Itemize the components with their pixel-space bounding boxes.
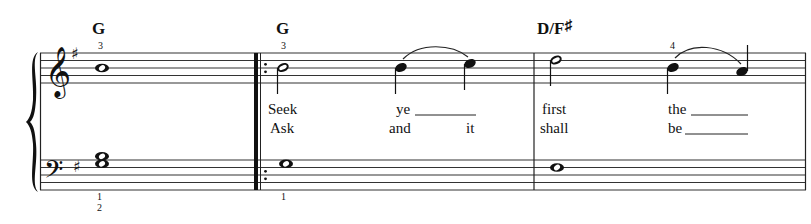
lyric: it bbox=[466, 120, 474, 137]
whole-note bbox=[550, 163, 564, 172]
fingering: 3 bbox=[281, 40, 286, 51]
half-note bbox=[549, 54, 563, 86]
lyric: Ask bbox=[270, 120, 294, 137]
sharp-icon: ♯ bbox=[73, 157, 81, 176]
treble-clef-icon: 𝄞 bbox=[45, 45, 71, 99]
lyric: the bbox=[668, 101, 686, 118]
chord-symbol: D/F♯ bbox=[537, 17, 572, 39]
slur bbox=[675, 47, 741, 64]
fingering: 4 bbox=[670, 40, 675, 51]
lyric: Seek bbox=[268, 101, 297, 118]
chord-symbol-sharp: ♯ bbox=[564, 17, 572, 33]
repeat-start-barline bbox=[254, 53, 267, 190]
lyric: and bbox=[389, 120, 411, 137]
lyric: shall bbox=[540, 120, 568, 137]
bass-clef-icon: 𝄢 bbox=[44, 155, 63, 190]
quarter-note bbox=[666, 61, 680, 94]
quarter-note bbox=[735, 45, 749, 78]
chord-symbol: G bbox=[276, 19, 289, 39]
brace bbox=[26, 52, 38, 192]
fingering: 3 bbox=[98, 40, 103, 51]
bass-staff bbox=[40, 160, 806, 190]
quarter-note bbox=[463, 57, 477, 90]
lyric: ye bbox=[396, 101, 410, 118]
fingering: 1 bbox=[281, 191, 286, 202]
treble-staff bbox=[40, 53, 806, 83]
lyric: be bbox=[668, 120, 682, 137]
chord-symbol: G bbox=[92, 19, 105, 39]
lyric: first bbox=[542, 101, 566, 118]
lyric-extender-lines bbox=[415, 115, 748, 134]
chord-symbol-main: D/F bbox=[537, 19, 564, 38]
fingering: 1 bbox=[97, 191, 102, 202]
fingering: 2 bbox=[97, 202, 102, 213]
whole-note bbox=[279, 160, 293, 169]
half-note bbox=[276, 61, 290, 94]
sharp-icon: ♯ bbox=[71, 44, 79, 63]
quarter-note bbox=[394, 61, 408, 94]
whole-note bbox=[95, 64, 109, 73]
